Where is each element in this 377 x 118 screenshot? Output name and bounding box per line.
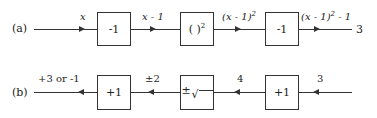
radical-symbol: √ bbox=[192, 88, 199, 101]
radical-bar bbox=[199, 90, 213, 101]
edge-label-x: x bbox=[80, 11, 86, 22]
row-a-label: (a) bbox=[12, 22, 27, 35]
edge-label-sup: 2 bbox=[252, 10, 256, 18]
sqrt-icon: ± √ bbox=[181, 84, 212, 101]
block-plus-one-b1: +1 bbox=[97, 75, 131, 110]
edge-label-4: 4 bbox=[237, 73, 243, 84]
edge-output-b bbox=[34, 92, 97, 93]
plus-minus-symbol: ± bbox=[181, 84, 190, 97]
block-square: ( )2 bbox=[180, 12, 214, 46]
block-minus-one-a2: -1 bbox=[265, 12, 299, 46]
arrow-right-icon bbox=[314, 26, 320, 32]
output-value: 3 bbox=[356, 23, 363, 36]
arrow-left-icon bbox=[148, 89, 154, 95]
edge-label-input-3: 3 bbox=[317, 73, 323, 84]
arrow-left-icon bbox=[313, 89, 319, 95]
edge-output-a bbox=[299, 29, 352, 30]
edge-label-suffix: - 1 bbox=[335, 11, 351, 22]
block-op: +1 bbox=[106, 86, 122, 99]
row-b-label: (b) bbox=[12, 86, 28, 99]
edge-label-squared-minus-1: (x - 1)2 - 1 bbox=[301, 10, 351, 22]
edge-label-text: (x - 1) bbox=[222, 11, 252, 22]
block-plus-minus-sqrt: ± √ bbox=[180, 75, 214, 110]
edge-label-squared: (x - 1)2 bbox=[222, 10, 256, 22]
arrow-right-icon bbox=[150, 26, 156, 32]
block-op: -1 bbox=[277, 23, 288, 36]
edge-label-result: +3 or -1 bbox=[38, 73, 80, 84]
block-op: -1 bbox=[109, 23, 120, 36]
edge-input-b bbox=[299, 92, 352, 93]
arrow-left-icon bbox=[78, 89, 84, 95]
edge-input-a bbox=[34, 29, 97, 30]
edge-label-x-minus-1: x - 1 bbox=[142, 11, 164, 22]
edge-b1 bbox=[131, 92, 180, 93]
block-plus-one-b2: +1 bbox=[265, 75, 299, 110]
block-op-text: ( ) bbox=[189, 23, 201, 36]
edge-label-text: (x - 1) bbox=[301, 11, 331, 22]
block-minus-one-a1: -1 bbox=[97, 12, 131, 46]
arrow-right-icon bbox=[235, 26, 241, 32]
block-op: ( )2 bbox=[189, 22, 206, 36]
arrow-left-icon bbox=[234, 89, 240, 95]
edge-label-pm2: ±2 bbox=[145, 73, 160, 84]
block-op: +1 bbox=[274, 86, 290, 99]
block-op-sup: 2 bbox=[201, 22, 205, 30]
arrow-right-icon bbox=[79, 26, 85, 32]
